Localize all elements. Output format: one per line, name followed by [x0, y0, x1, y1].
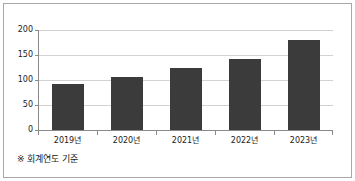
- bar: [288, 40, 320, 130]
- bar-slot: [38, 30, 97, 130]
- bar: [52, 84, 84, 131]
- x-axis-category-label: 2023년: [274, 137, 333, 146]
- bar: [170, 68, 202, 131]
- bar: [229, 59, 261, 131]
- chart-figure: 050100150200 2019년2020년2021년2022년2023년 ※…: [0, 0, 355, 181]
- y-axis-tick-label: 50: [23, 101, 33, 109]
- bar-slot: [215, 30, 274, 130]
- chart-footnote: ※ 회계연도 기준: [17, 154, 78, 165]
- x-axis-tick-cell: [156, 131, 215, 135]
- x-axis-tick-cell: [215, 131, 274, 135]
- x-axis-tick-mark: [38, 131, 39, 135]
- x-axis-ticks: [38, 131, 333, 135]
- y-axis-tick-label: 100: [18, 76, 33, 84]
- bar: [111, 77, 143, 131]
- x-axis-labels: 2019년2020년2021년2022년2023년: [38, 137, 333, 146]
- x-axis-tick-mark: [215, 131, 216, 135]
- bar-series: [38, 30, 333, 130]
- x-axis-tick-mark: [97, 131, 98, 135]
- x-axis-tick-mark: [332, 131, 333, 135]
- bar-slot: [97, 30, 156, 130]
- y-axis-tick-label: 150: [18, 51, 33, 59]
- y-axis-tick-label: 0: [28, 126, 33, 134]
- chart-frame: 050100150200 2019년2020년2021년2022년2023년 ※…: [3, 3, 352, 178]
- x-axis-category-label: 2019년: [38, 137, 97, 146]
- x-axis-tick-cell: [274, 131, 333, 135]
- bar-slot: [156, 30, 215, 130]
- x-axis-tick-mark: [274, 131, 275, 135]
- x-axis-category-label: 2020년: [97, 137, 156, 146]
- x-axis-tick-mark: [156, 131, 157, 135]
- x-axis-tick-cell: [38, 131, 97, 135]
- y-axis-tick-label: 200: [18, 26, 33, 34]
- x-axis-category-label: 2022년: [215, 137, 274, 146]
- bar-slot: [274, 30, 333, 130]
- x-axis-tick-cell: [97, 131, 156, 135]
- x-axis-category-label: 2021년: [156, 137, 215, 146]
